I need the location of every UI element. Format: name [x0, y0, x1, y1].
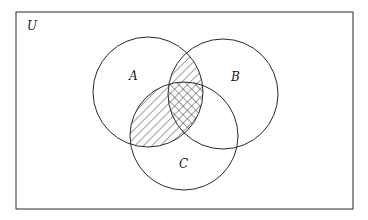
- venn-diagram: U A B C: [0, 0, 368, 220]
- set-c-label: C: [179, 157, 188, 171]
- set-a-label: A: [128, 69, 138, 83]
- set-b-label: B: [230, 70, 240, 84]
- universe-label: U: [27, 19, 38, 33]
